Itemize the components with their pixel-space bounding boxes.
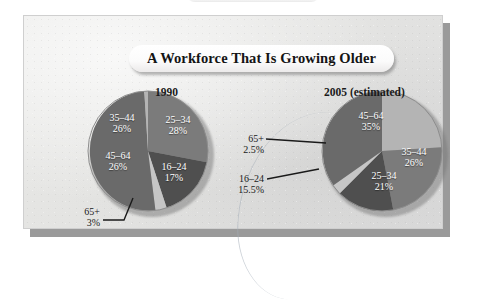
pie-1990-callout-65-plus: 65+ 3% (60, 206, 100, 228)
page-title: A Workforce That Is Growing Older (147, 50, 376, 67)
pie-1990-svg (86, 89, 210, 213)
page-top-cutoff-bar (186, 0, 320, 2)
chart-heading-1990: 1990 (155, 86, 178, 98)
pie-2005-svg (320, 89, 444, 213)
pie-chart-1990: 25–34 28% 16–24 17% 45–64 26% 35–44 26% (86, 89, 210, 213)
pie-chart-2005: 45–64 35% 35–44 26% 25–34 21% (320, 89, 444, 213)
pie-2005-callout-65-plus: 65+ 2.5% (220, 133, 264, 155)
figure-title-pill: A Workforce That Is Growing Older (129, 45, 394, 72)
figure-panel: A Workforce That Is Growing Older 1990 2… (23, 15, 443, 229)
chart-heading-2005: 2005 (estimated) (324, 86, 405, 98)
pie-2005-leader-line-16-24 (267, 166, 327, 184)
pie-2005-leader-line-65-plus (266, 134, 328, 146)
pie-2005-slice-35-44 (382, 91, 442, 151)
pie-2005-callout-16-24: 16–24 15.5% (209, 173, 264, 195)
pie-1990-slice-25-34 (148, 91, 208, 162)
